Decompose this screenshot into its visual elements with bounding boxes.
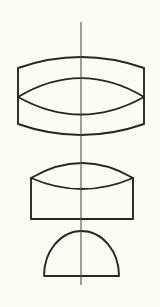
line-drawing-canvas bbox=[0, 0, 160, 307]
geometric-figure bbox=[0, 0, 160, 307]
drawing-background bbox=[0, 0, 160, 307]
